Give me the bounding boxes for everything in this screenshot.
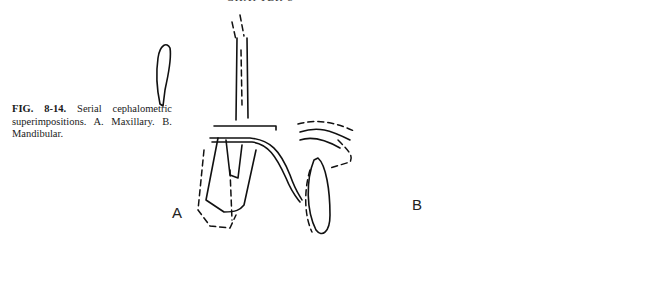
panel-a-label: A [172,204,182,221]
tooth-fragment-drawing [157,45,171,106]
panel-a-drawing [198,15,356,234]
figure-drawings [0,0,652,283]
panel-b-label: B [412,196,422,213]
